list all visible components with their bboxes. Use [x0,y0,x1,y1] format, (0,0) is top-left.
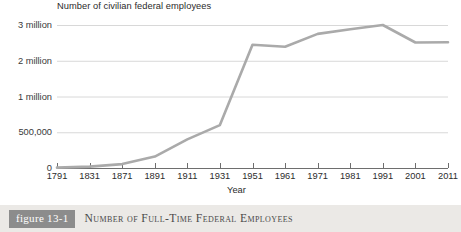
x-tick-label: 1991 [372,171,393,181]
figure-caption-title: Number of Full-Time Federal Employees [84,212,292,225]
x-tick-label: 2001 [405,171,426,181]
y-tick-label: 1 million [18,92,52,102]
x-tick-label: 1981 [340,171,361,181]
x-tick-label: 2011 [438,171,458,181]
x-tick-label: 1891 [144,171,165,181]
x-tick-label: 1871 [112,171,133,181]
figure-number-badge: figure 13-1 [9,210,75,228]
chart-area: Number of civilian federal employees 3 m… [0,0,461,200]
x-tick-label: 1791 [47,171,68,181]
figure-caption-bar: figure 13-1 Number of Full-Time Federal … [0,205,461,232]
y-tick-label: 2 million [18,56,52,66]
y-tick-label: 500,000 [18,127,52,137]
x-axis-title: Year [0,185,461,195]
x-tick-label: 1961 [275,171,296,181]
y-tick-label: 3 million [18,20,52,30]
figure-container: Number of civilian federal employees 3 m… [0,0,461,232]
x-tick-label: 1831 [79,171,100,181]
x-tick-label: 1951 [242,171,263,181]
data-series-line [57,25,448,168]
x-tick-label: 1911 [177,171,197,181]
line-chart-plot [0,0,461,200]
x-axis-title-text: Year [227,185,246,195]
gridlines-group [57,26,448,133]
x-tick-label: 1931 [210,171,231,181]
x-tick-label: 1971 [307,171,328,181]
